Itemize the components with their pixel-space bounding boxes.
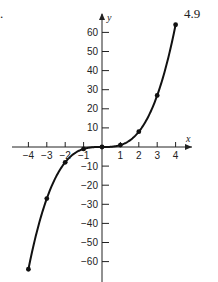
data-point — [173, 22, 178, 27]
x-tick-label: 1 — [118, 150, 124, 161]
y-tick-label: −40 — [81, 218, 98, 229]
y-axis-label: y — [106, 12, 112, 23]
figure-number: 4.9 — [184, 6, 200, 21]
figure-left-mark: . — [0, 6, 3, 21]
data-point — [118, 143, 123, 148]
y-tick-label: −20 — [81, 180, 98, 191]
y-tick-label: 60 — [87, 27, 99, 38]
y-axis-arrow-icon — [99, 13, 105, 20]
y-tick-label: −50 — [81, 237, 98, 248]
x-axis-label: x — [185, 133, 191, 144]
y-tick-label: −60 — [81, 256, 98, 267]
x-tick-label: −1 — [78, 150, 90, 161]
y-tick-label: −30 — [81, 199, 98, 210]
x-tick-label: −4 — [23, 150, 35, 161]
x-tick-label: 4 — [173, 150, 179, 161]
y-tick-label: 40 — [87, 65, 99, 76]
x-tick-label: −3 — [41, 150, 53, 161]
data-point — [155, 93, 160, 98]
data-point — [100, 145, 105, 150]
labels: xy−4−3−2−11234605040302010−10−20−30−40−5… — [0, 6, 200, 267]
y-tick-label: −10 — [81, 161, 98, 172]
cubic-function-chart: xy−4−3−2−11234605040302010−10−20−30−40−5… — [0, 0, 218, 282]
x-tick-label: 3 — [154, 150, 160, 161]
data-point — [44, 196, 49, 201]
x-axis-arrow-icon — [185, 144, 192, 150]
data-point — [26, 267, 31, 272]
data-point — [136, 129, 141, 134]
y-tick-label: 50 — [87, 46, 99, 57]
y-tick-label: 10 — [87, 122, 99, 133]
x-tick-label: 2 — [136, 150, 142, 161]
y-tick-label: 20 — [87, 103, 99, 114]
y-tick-label: 30 — [87, 84, 99, 95]
x-tick-label: −2 — [59, 150, 71, 161]
